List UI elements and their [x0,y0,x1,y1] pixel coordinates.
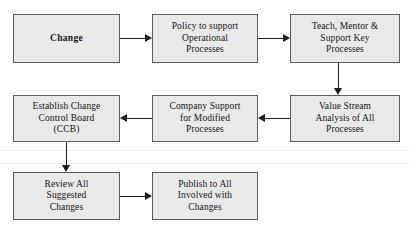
arrow-right-icon [145,34,152,42]
node-change-label: Change [14,33,119,45]
connector-line [120,196,145,197]
connector-line [258,38,283,39]
flowchart-canvas: Change Policy to support Operational Pro… [0,0,409,232]
connector-line [66,142,67,165]
node-publish-label: Publish to All Involved with Changes [153,179,257,214]
node-review-label: Review All Suggested Changes [14,179,119,214]
connector-line [127,118,152,119]
node-establish-ccb-label: Establish Change Control Board (CCB) [14,101,119,136]
node-policy[interactable]: Policy to support Operational Processes [152,14,258,63]
node-policy-label: Policy to support Operational Processes [153,21,257,56]
arrow-right-icon [283,34,290,42]
arrow-left-icon [120,114,127,122]
connector-line [120,38,145,39]
arrow-left-icon [258,114,265,122]
node-teach[interactable]: Teach, Mentor & Support Key Processes [290,14,400,63]
scan-artifact-line [0,150,409,151]
node-value-stream-label: Value Stream Analysis of All Processes [291,101,399,136]
arrow-down-icon [334,88,342,95]
node-review[interactable]: Review All Suggested Changes [13,172,120,220]
scan-artifact-line [0,163,409,164]
node-company-support[interactable]: Company Support for Modified Processes [152,95,258,142]
arrow-down-icon [62,165,70,172]
node-teach-label: Teach, Mentor & Support Key Processes [291,21,399,56]
connector-line [338,63,339,88]
node-company-support-label: Company Support for Modified Processes [153,101,257,136]
node-change[interactable]: Change [13,14,120,63]
node-establish-ccb[interactable]: Establish Change Control Board (CCB) [13,95,120,142]
connector-line [265,118,290,119]
arrow-right-icon [145,192,152,200]
node-publish[interactable]: Publish to All Involved with Changes [152,172,258,220]
node-value-stream[interactable]: Value Stream Analysis of All Processes [290,95,400,142]
